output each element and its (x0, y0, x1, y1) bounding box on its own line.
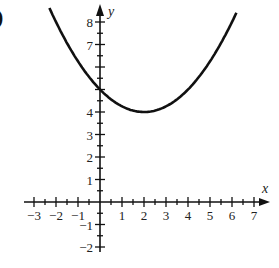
x-tick-label: 6 (229, 208, 236, 223)
y-tick-label: 1 (87, 173, 94, 188)
x-tick-label: 5 (207, 208, 214, 223)
graph: −3−2−11234567−2−1123478 x y ) (0, 0, 279, 268)
y-tick-label: −1 (79, 218, 93, 233)
x-tick-label: 1 (119, 208, 126, 223)
y-tick-label: 8 (87, 15, 94, 30)
y-tick-label: −2 (79, 240, 93, 255)
y-tick-label: 3 (87, 128, 94, 143)
x-axis-label: x (261, 181, 269, 196)
x-tick-label: 3 (163, 208, 170, 223)
axes: −3−2−11234567−2−1123478 x y (24, 4, 270, 255)
y-tick-label: 2 (87, 150, 94, 165)
y-axis-arrow-icon (96, 4, 104, 16)
x-tick-label: 7 (251, 208, 258, 223)
x-tick-label: −2 (49, 208, 63, 223)
y-tick-label: 7 (87, 38, 94, 53)
tick-labels: −3−2−11234567−2−1123478 (27, 15, 258, 255)
x-tick-label: 2 (141, 208, 148, 223)
x-tick-label: −3 (27, 208, 41, 223)
y-axis-label: y (106, 4, 115, 19)
x-tick-label: 4 (185, 208, 192, 223)
panel-label: ) (0, 4, 3, 29)
y-tick-label: 4 (87, 105, 94, 120)
x-axis-arrow-icon (259, 198, 270, 206)
parabola-curve (49, 8, 236, 112)
